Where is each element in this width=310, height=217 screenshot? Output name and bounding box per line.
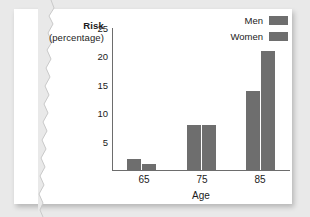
legend-item-men: Men (196, 14, 288, 27)
bar-women-65 (142, 164, 156, 170)
legend-swatch-men (269, 16, 288, 25)
x-tick-85: 85 (240, 174, 280, 185)
y-tick-10: 10 (86, 108, 108, 119)
x-tick-75: 75 (182, 174, 222, 185)
bar-chart: Risk (percentage) 25 20 15 10 5 65 75 85… (0, 0, 310, 217)
y-tick-5: 5 (86, 137, 108, 148)
y-axis-tick-labels: 25 20 15 10 5 (84, 0, 108, 217)
bar-men-65 (127, 159, 141, 170)
x-axis-line (112, 170, 290, 171)
bars-area (112, 28, 290, 170)
bar-men-75 (187, 125, 201, 170)
bar-women-85 (261, 51, 275, 170)
y-tick-20: 20 (86, 51, 108, 62)
legend-label-men: Men (245, 15, 263, 26)
legend-swatch-women (269, 32, 288, 41)
bar-men-85 (246, 91, 260, 171)
bar-women-75 (202, 125, 216, 170)
y-tick-25: 25 (86, 23, 108, 34)
page-root: Risk (percentage) 25 20 15 10 5 65 75 85… (0, 0, 310, 217)
x-axis-title: Age (112, 190, 290, 201)
chart-legend: Men Women (196, 14, 288, 46)
legend-label-women: Women (230, 31, 263, 42)
y-tick-15: 15 (86, 80, 108, 91)
x-tick-65: 65 (124, 174, 164, 185)
legend-item-women: Women (196, 30, 288, 43)
